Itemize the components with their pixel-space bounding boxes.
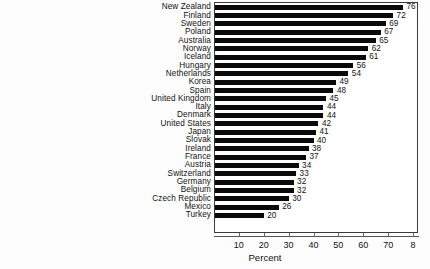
x-axis-tick-label: 50 <box>333 240 343 250</box>
bar <box>215 196 289 201</box>
bar-value-label: 26 <box>282 203 291 211</box>
bar-row: United Kingdom45 <box>0 95 430 103</box>
category-label: Sweden <box>11 20 211 28</box>
bar-row: Australia65 <box>0 37 430 45</box>
x-axis-tick-label: 10 <box>234 240 244 250</box>
bar <box>215 171 296 176</box>
bar <box>215 96 326 101</box>
bar <box>215 55 366 60</box>
bar <box>215 46 368 51</box>
bar <box>215 138 314 143</box>
x-axis-tick <box>264 233 265 237</box>
bar <box>215 113 323 118</box>
category-label: Ireland <box>11 145 211 153</box>
x-axis-tick <box>363 233 364 237</box>
bar-row: France37 <box>0 153 430 161</box>
category-label: Korea <box>11 78 211 86</box>
category-label: Japan <box>11 128 211 136</box>
category-label: United Kingdom <box>11 95 211 103</box>
bar-row: Italy44 <box>0 103 430 111</box>
bar <box>215 30 381 35</box>
bar <box>215 71 348 76</box>
bar <box>215 180 294 185</box>
bar-value-label: 20 <box>267 212 276 220</box>
bar <box>215 21 386 26</box>
category-label: New Zealand <box>11 3 211 11</box>
bar-row: Netherlands54 <box>0 70 430 78</box>
bar <box>215 105 323 110</box>
bar-value-label: 30 <box>292 195 301 203</box>
x-axis-tick-label: 20 <box>259 240 269 250</box>
x-axis-tick <box>338 233 339 237</box>
bar-row: Denmark44 <box>0 111 430 119</box>
category-label: Slovak <box>11 136 211 144</box>
bar-row: Spain48 <box>0 87 430 95</box>
bar <box>215 130 316 135</box>
x-axis-tick-label: 8 <box>411 240 416 250</box>
bar-row: Poland67 <box>0 28 430 36</box>
bar-row: Germany32 <box>0 178 430 186</box>
x-axis-tick-label: 30 <box>284 240 294 250</box>
bar-value-label: 54 <box>352 70 361 78</box>
category-label: Norway <box>11 45 211 53</box>
x-axis-tick <box>413 233 414 237</box>
category-label: Mexico <box>11 203 211 211</box>
bar-row: Korea49 <box>0 78 430 86</box>
x-axis-tick-label: 60 <box>358 240 368 250</box>
category-label: United States <box>11 120 211 128</box>
bar-value-label: 76 <box>407 3 416 11</box>
bar-row: Belgium32 <box>0 186 430 194</box>
bar-row: Turkey20 <box>0 211 430 219</box>
bar <box>215 188 294 193</box>
bar <box>215 38 376 43</box>
bar <box>215 146 309 151</box>
category-label: Australia <box>11 37 211 45</box>
bar-row: Finland72 <box>0 12 430 20</box>
category-label: Czech Republic <box>11 195 211 203</box>
x-axis-tick <box>239 233 240 237</box>
x-axis-tick-label: 70 <box>383 240 393 250</box>
bar <box>215 13 393 18</box>
bar-row: Czech Republic30 <box>0 195 430 203</box>
bar <box>215 155 306 160</box>
bar <box>215 63 353 68</box>
bar <box>215 205 279 210</box>
bar-value-label: 61 <box>369 53 378 61</box>
bar-row: Ireland38 <box>0 145 430 153</box>
bar-row: Mexico26 <box>0 203 430 211</box>
bar-row: Switzerland33 <box>0 170 430 178</box>
bar-row: Norway62 <box>0 45 430 53</box>
bar-row: Austria34 <box>0 161 430 169</box>
bar-row: Japan41 <box>0 128 430 136</box>
chart-clip-area: New Zealand76Finland72Sweden69Poland67Au… <box>0 0 430 269</box>
bar-chart: New Zealand76Finland72Sweden69Poland67Au… <box>0 0 430 269</box>
bar-row: Slovak40 <box>0 136 430 144</box>
bar <box>215 5 403 10</box>
bar-row: Hungary56 <box>0 62 430 70</box>
bar <box>215 80 336 85</box>
bar <box>215 88 333 93</box>
x-axis-tick <box>314 233 315 237</box>
bar <box>215 121 318 126</box>
bar-row: New Zealand76 <box>0 3 430 11</box>
bar <box>215 213 264 218</box>
x-axis-tick-label: 40 <box>308 240 318 250</box>
x-axis-tick <box>289 233 290 237</box>
bar-row: United States42 <box>0 120 430 128</box>
bar-row: Sweden69 <box>0 20 430 28</box>
category-label: France <box>11 153 211 161</box>
category-label: Turkey <box>11 211 211 219</box>
category-label: Netherlands <box>11 70 211 78</box>
x-axis-title: Percent <box>248 252 281 263</box>
x-axis-tick <box>388 233 389 237</box>
bar <box>215 163 299 168</box>
